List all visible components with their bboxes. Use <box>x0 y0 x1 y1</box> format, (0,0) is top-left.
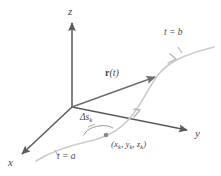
position-vector <box>72 77 155 107</box>
delta-s-symbol: Δs <box>80 112 89 122</box>
paren-close: ) <box>143 139 146 149</box>
x-axis <box>22 107 72 154</box>
position-vector-label: r(t) <box>105 68 119 78</box>
point-coordinates-label: (xk, yk, zk) <box>111 140 146 150</box>
arc-length-bracket <box>84 124 113 135</box>
t-equals-b-tick <box>178 47 182 53</box>
z-axis-label: z <box>68 6 72 17</box>
space-curve-figure: z y x t = b t = a r(t) Δsk (xk, yk, zk) <box>0 0 221 176</box>
arc-length-label: Δsk <box>80 113 92 124</box>
vector-argument: (t) <box>109 67 118 78</box>
curve-point-marker <box>104 133 109 138</box>
t-equals-b-label: t = b <box>164 28 183 38</box>
x-axis-label: x <box>8 157 13 168</box>
y-axis-label: y <box>195 128 200 139</box>
delta-s-subscript: k <box>89 116 92 123</box>
t-equals-a-label: t = a <box>57 152 76 162</box>
